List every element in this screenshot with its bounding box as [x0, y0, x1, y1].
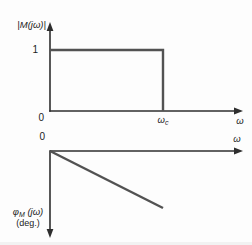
- omega-symbol: ω: [158, 114, 165, 125]
- phi-argument: (jω): [25, 206, 43, 217]
- magnitude-curve: [50, 50, 163, 111]
- up-arrow-icon: [47, 22, 54, 31]
- phase-curve: [50, 151, 163, 208]
- cutoff-subscript: c: [165, 119, 169, 126]
- magnitude-ytick-1: 1: [28, 45, 38, 55]
- right-arrow-icon: [234, 108, 243, 115]
- figure-ideal-filter-response: |M(jω)| 1 0 ωc ω 0 ω φM (jω) (deg.): [0, 0, 252, 245]
- phase-units-label: (deg.): [6, 219, 50, 228]
- magnitude-origin-label: 0: [34, 113, 44, 123]
- phase-origin-label: 0: [35, 132, 45, 142]
- phase-x-axis-label: ω: [230, 134, 244, 144]
- magnitude-xtick-cutoff: ωc: [152, 115, 174, 126]
- magnitude-y-axis-label: |M(jω)|: [2, 20, 46, 30]
- phase-y-axis-label: φM (jω): [6, 207, 50, 218]
- down-arrow-icon: [47, 229, 54, 238]
- magnitude-x-axis-label: ω: [233, 116, 247, 126]
- right-arrow-icon: [234, 148, 243, 155]
